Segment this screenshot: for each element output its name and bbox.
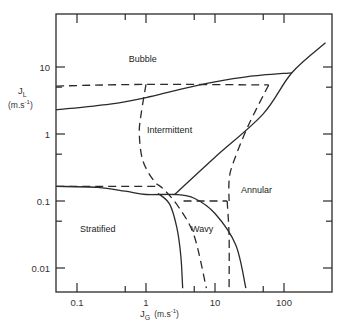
x-tick-label: 100 (276, 297, 292, 308)
regime-boundaries (56, 43, 325, 288)
svg-text:JG(m.s-1): JG(m.s-1) (140, 308, 179, 321)
solid-boundary-curve-0 (56, 73, 292, 110)
region-label-wavy: Wavy (191, 224, 214, 234)
x-tick-label: 1 (143, 297, 148, 308)
x-tick-label: 10 (210, 297, 221, 308)
solid-boundary-curve-2 (56, 186, 246, 288)
axis-ticks (56, 14, 332, 292)
x-axis-label: JG(m.s-1) (140, 308, 179, 321)
y-tick-label: 0.01 (32, 263, 51, 274)
svg-text:(m.s-1): (m.s-1) (8, 99, 33, 110)
flow-regime-map: 0.11101000.010.1110 BubbleIntermittentAn… (0, 0, 344, 328)
solid-boundary-curve-1 (175, 43, 326, 195)
y-tick-label: 1 (45, 129, 50, 140)
region-label-annular: Annular (241, 185, 272, 195)
plot-frame (56, 14, 332, 292)
y-tick-label: 0.1 (37, 196, 50, 207)
y-tick-label: 10 (39, 62, 50, 73)
dashed-boundary-curve-9 (227, 201, 229, 288)
region-labels: BubbleIntermittentAnnularStratifiedWavy (80, 54, 272, 234)
region-label-bubble: Bubble (129, 54, 157, 64)
region-label-stratified: Stratified (80, 224, 116, 234)
dashed-boundary-curve-4 (56, 84, 268, 86)
svg-text:JL: JL (18, 85, 27, 98)
region-label-intermittent: Intermittent (147, 125, 193, 135)
x-tick-label: 0.1 (70, 297, 83, 308)
dashed-boundary-curve-5 (229, 85, 269, 201)
y-axis-label: JL (m.s-1) (8, 85, 33, 110)
